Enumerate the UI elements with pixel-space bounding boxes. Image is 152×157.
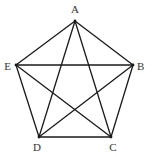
edge-de [16, 65, 39, 137]
edge-ac [75, 21, 111, 137]
edge-ab [75, 21, 133, 65]
vertex-label-b: B [137, 60, 144, 72]
vertex-d [38, 136, 41, 139]
vertex-label-e: E [4, 60, 11, 72]
edge-bd [39, 65, 133, 137]
vertex-e [15, 64, 18, 67]
vertex-label-a: A [71, 3, 79, 15]
vertex-label-d: D [33, 141, 41, 153]
pentagon-complete-graph: ABCDE [0, 0, 152, 157]
vertex-b [132, 64, 135, 67]
edge-ad [39, 21, 75, 137]
vertex-label-c: C [109, 141, 116, 153]
edge-ea [16, 21, 75, 65]
vertex-c [110, 136, 113, 139]
edge-bc [111, 65, 133, 137]
labels-group: ABCDE [4, 3, 144, 153]
edges-group [16, 21, 133, 137]
edge-ce [16, 65, 111, 137]
vertex-a [74, 20, 77, 23]
